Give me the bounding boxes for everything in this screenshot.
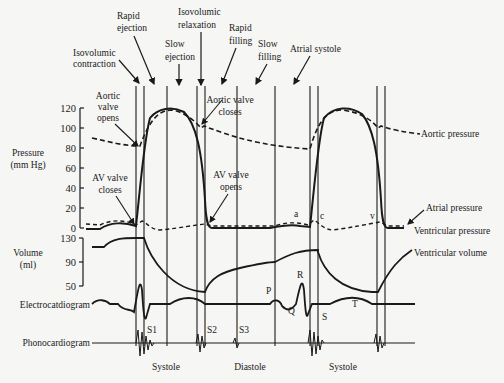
svg-text:c: c <box>320 211 324 221</box>
svg-text:AV valve: AV valve <box>213 170 248 180</box>
svg-text:Q: Q <box>288 306 295 316</box>
svg-text:60: 60 <box>66 163 77 174</box>
ventricular-pressure-curve <box>86 108 404 229</box>
svg-text:130: 130 <box>60 233 76 244</box>
curve-labels: Aortic pressure Atrial pressure Ventricu… <box>408 129 490 258</box>
svg-text:Systole: Systole <box>152 362 180 372</box>
valve-annotations: Aortic valve opens Aortic valve closes A… <box>92 91 253 224</box>
svg-text:S1: S1 <box>147 325 157 335</box>
svg-text:Volume: Volume <box>13 248 42 258</box>
svg-text:(mm Hg): (mm Hg) <box>10 160 45 171</box>
svg-text:Slow: Slow <box>258 39 278 49</box>
svg-text:ejection: ejection <box>165 52 195 62</box>
svg-text:closes: closes <box>98 185 122 195</box>
svg-text:Ventricular volume: Ventricular volume <box>414 248 487 258</box>
ecg-trace <box>92 283 415 318</box>
svg-text:40: 40 <box>66 183 77 194</box>
svg-text:20: 20 <box>66 203 77 214</box>
cycle-labels: Systole Diastole Systole <box>152 362 357 372</box>
svg-text:120: 120 <box>60 103 76 114</box>
phase-arrows <box>119 32 310 85</box>
svg-text:Systole: Systole <box>329 362 357 372</box>
svg-text:relaxation: relaxation <box>178 20 216 30</box>
svg-text:filling: filling <box>229 36 252 46</box>
phase-labels: Isovolumic contraction Rapid ejection Sl… <box>73 7 341 69</box>
svg-text:(ml): (ml) <box>20 260 36 271</box>
phase-lines <box>136 86 385 346</box>
ecg-label: Electrocatdiogram <box>20 300 91 310</box>
svg-text:a: a <box>294 209 299 219</box>
svg-text:Aortic valve: Aortic valve <box>206 95 253 105</box>
svg-text:90: 90 <box>66 257 77 268</box>
pressure-axis: 120 100 80 60 40 20 0 Pressure (mm Hg) <box>10 103 84 234</box>
svg-text:R: R <box>297 270 304 280</box>
svg-text:Isovolumic: Isovolumic <box>73 48 116 58</box>
wiggers-diagram: Isovolumic contraction Rapid ejection Sl… <box>0 0 504 383</box>
svg-text:T: T <box>352 299 358 309</box>
svg-text:Isovolumic: Isovolumic <box>178 7 221 17</box>
svg-text:opens: opens <box>97 113 119 123</box>
volume-axis: 130 90 50 Volume (ml) <box>13 233 83 292</box>
svg-text:AV valve: AV valve <box>92 173 127 183</box>
svg-text:Slow: Slow <box>165 39 185 49</box>
svg-text:100: 100 <box>60 123 76 134</box>
svg-text:S3: S3 <box>239 325 249 335</box>
svg-text:valve: valve <box>98 102 119 112</box>
svg-text:closes: closes <box>218 107 242 117</box>
svg-text:50: 50 <box>66 281 77 292</box>
svg-text:opens: opens <box>220 182 242 192</box>
pcg-label: Phonocardiogram <box>22 338 90 348</box>
svg-text:ejection: ejection <box>117 23 147 33</box>
svg-text:Atrial pressure: Atrial pressure <box>426 203 482 213</box>
svg-text:Pressure: Pressure <box>12 148 44 158</box>
svg-text:Aortic: Aortic <box>96 91 120 101</box>
svg-text:Ventricular pressure: Ventricular pressure <box>414 226 490 236</box>
svg-text:v: v <box>370 211 375 221</box>
svg-text:Rapid: Rapid <box>117 11 140 21</box>
svg-text:Atrial systole: Atrial systole <box>290 44 341 54</box>
svg-text:contraction: contraction <box>73 59 116 69</box>
svg-text:Rapid: Rapid <box>229 23 252 33</box>
svg-text:P: P <box>266 286 271 296</box>
svg-text:S: S <box>322 312 327 322</box>
svg-text:80: 80 <box>66 143 77 154</box>
svg-text:Aortic pressure: Aortic pressure <box>421 129 479 139</box>
svg-text:S2: S2 <box>207 325 217 335</box>
svg-text:Diastole: Diastole <box>234 362 266 372</box>
svg-text:filling: filling <box>258 52 281 62</box>
